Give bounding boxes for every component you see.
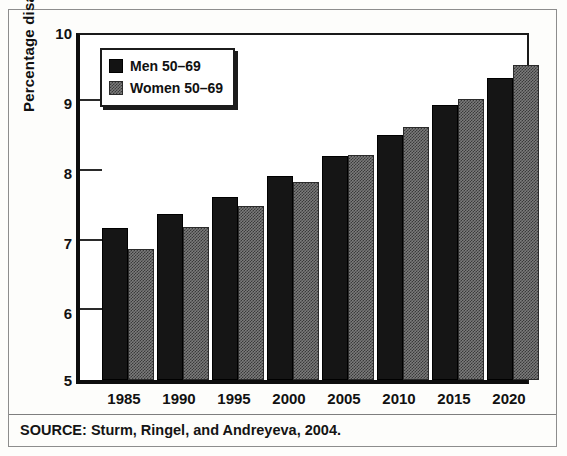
y-tick-label-10: 10 [38, 25, 72, 42]
source-note: SOURCE: Sturm, Ringel, and Andreyeva, 20… [20, 422, 341, 438]
x-tick-label-2000: 2000 [272, 390, 305, 407]
bar-men-1985 [102, 228, 128, 380]
x-axis-tick-labels: 1985 1990 1995 2000 2005 2010 2015 2020 [76, 390, 529, 414]
bar-men-2000 [267, 176, 293, 380]
y-axis-tick-labels: 10 9 8 7 6 5 [34, 0, 72, 456]
x-tick-label-1985: 1985 [107, 390, 140, 407]
bar-men-2020 [487, 78, 513, 380]
legend-label-women: Women 50–69 [130, 80, 223, 96]
legend-label-men: Men 50–69 [130, 58, 201, 74]
y-tick-label-6: 6 [38, 305, 72, 322]
chart-legend: Men 50–69 Women 50–69 [100, 48, 235, 107]
bar-men-2015 [432, 105, 458, 380]
bar-women-2010 [403, 127, 429, 380]
bar-men-2005 [322, 156, 348, 380]
y-tick-label-5: 5 [38, 372, 72, 389]
x-tick-label-2010: 2010 [382, 390, 415, 407]
legend-swatch-women-icon [109, 81, 123, 95]
bar-women-2015 [458, 99, 484, 381]
legend-item-men: Men 50–69 [109, 55, 223, 77]
bar-women-1995 [238, 206, 264, 380]
bar-men-1990 [157, 214, 183, 380]
x-tick-label-2015: 2015 [437, 390, 470, 407]
x-tick-label-1995: 1995 [217, 390, 250, 407]
x-tick-label-2020: 2020 [492, 390, 525, 407]
source-divider [9, 414, 556, 415]
bar-women-2000 [293, 182, 319, 380]
legend-item-women: Women 50–69 [109, 77, 223, 99]
legend-swatch-men-icon [109, 59, 123, 73]
figure-container: Percentage disabled 10 9 8 7 6 5 [0, 0, 567, 456]
y-tick-label-8: 8 [38, 165, 72, 182]
x-tick-label-1990: 1990 [162, 390, 195, 407]
y-tick-label-9: 9 [38, 95, 72, 112]
bar-men-2010 [377, 135, 403, 380]
x-tick-label-2005: 2005 [327, 390, 360, 407]
y-tick-label-7: 7 [38, 235, 72, 252]
bar-women-1985 [128, 249, 154, 380]
bar-men-1995 [212, 197, 238, 380]
bar-women-2005 [348, 155, 374, 380]
bar-women-1990 [183, 227, 209, 380]
bar-women-2020 [513, 65, 539, 380]
